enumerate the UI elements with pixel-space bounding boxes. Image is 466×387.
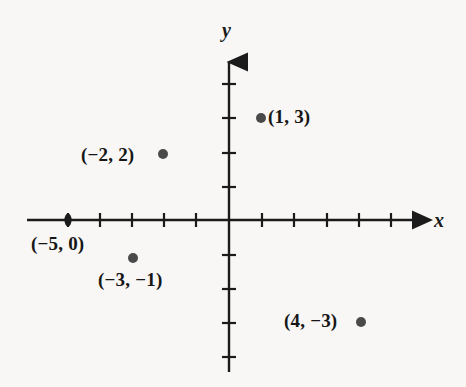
coordinate-axes-svg — [0, 0, 466, 387]
data-point-neg5-0[interactable] — [64, 214, 71, 227]
data-point-neg3-neg1[interactable] — [128, 253, 138, 263]
data-point-neg2-2[interactable] — [158, 149, 168, 159]
data-point-1-3[interactable] — [256, 113, 266, 123]
data-point-4-neg3[interactable] — [356, 317, 366, 327]
point-label-1-3: (1, 3) — [268, 107, 310, 126]
point-label-neg2-2: (−2, 2) — [81, 145, 134, 164]
point-label-neg5-0: (−5, 0) — [31, 234, 84, 253]
y-axis-label: y — [222, 20, 231, 40]
point-label-4-neg3: (4, −3) — [284, 311, 337, 330]
x-axis-label: x — [434, 210, 444, 230]
point-label-neg3-neg1: (−3, −1) — [98, 270, 162, 289]
coordinate-plane-figure: y x (1, 3) (−2, 2) (−5, 0) (−3, −1) (4, … — [0, 0, 466, 387]
